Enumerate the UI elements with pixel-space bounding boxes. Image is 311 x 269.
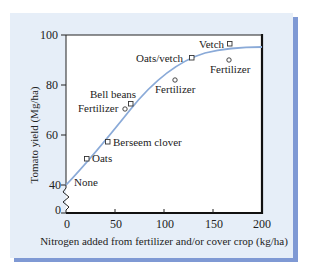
- point-vetch: [228, 42, 233, 47]
- x-tick-150: 150: [205, 217, 223, 231]
- point-berseem-clover: [106, 140, 111, 145]
- label-oats: Oats: [92, 152, 112, 164]
- label-oats-vetch: Oats/vetch: [136, 52, 184, 64]
- y-tick-0: 0: [55, 203, 61, 217]
- x-tick-50: 50: [110, 217, 122, 231]
- label-fertilizer-3: Fertilizer: [210, 63, 251, 75]
- point-oats: [85, 157, 90, 162]
- x-tick-100: 100: [156, 217, 174, 231]
- chart: 100 80 60 40 0 0 50 100 150 200 Nitrogen…: [0, 0, 311, 269]
- label-none: None: [74, 176, 98, 188]
- y-tick-100: 100: [40, 28, 58, 42]
- point-bell-beans: [129, 102, 134, 107]
- label-berseem-clover: Berseem clover: [113, 136, 182, 148]
- point-fertilizer-3: [227, 58, 231, 62]
- label-fertilizer-2: Fertilizer: [155, 83, 196, 95]
- x-tick-0: 0: [64, 217, 70, 231]
- x-tick-200: 200: [253, 217, 271, 231]
- point-fertilizer-1: [123, 107, 127, 111]
- y-axis-title: Tomato yield (Mg/ha): [28, 86, 41, 183]
- point-fertilizer-2: [173, 78, 177, 82]
- y-tick-40: 40: [49, 178, 61, 192]
- x-axis-title: Nitrogen added from fertilizer and/or co…: [40, 235, 288, 248]
- y-tick-60: 60: [46, 128, 58, 142]
- label-bell-beans: Bell beans: [90, 88, 136, 100]
- label-fertilizer-1: Fertilizer: [78, 102, 119, 114]
- label-vetch: Vetch: [199, 38, 225, 50]
- point-oats-vetch: [190, 56, 195, 61]
- y-tick-80: 80: [46, 78, 58, 92]
